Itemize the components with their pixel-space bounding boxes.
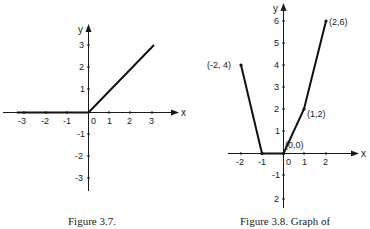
x-axis-label: x [361, 148, 366, 159]
x-tick-label: 3 [149, 116, 154, 126]
y-tick-label: 2 [79, 62, 84, 72]
figure-3-7: x y -3 -2 -1 0 1 2 3 3 2 [0, 0, 200, 229]
figure-caption: Figure 3.8. Graph of [240, 215, 330, 227]
function-graph [17, 45, 154, 113]
y-axis-arrow-icon [281, 3, 287, 11]
x-tick-label: 1 [302, 157, 307, 167]
y-tick-label: -2 [75, 151, 83, 161]
figure-3-8-plot: x y -2 -1 0 1 2 6 5 4 3 2 [200, 0, 370, 229]
x-tick-label: -2 [236, 157, 244, 167]
x-axis-arrow-icon [351, 151, 359, 157]
point-label: (2,6) [329, 17, 348, 27]
x-tick-label: 0 [286, 157, 291, 167]
figure-3-7-plot: x y -3 -2 -1 0 1 2 3 3 2 [0, 0, 200, 229]
y-tick-label: -1 [77, 129, 85, 139]
figure-caption: Figure 3.7. [68, 215, 116, 227]
y-tick-label: 3 [79, 40, 84, 50]
figure-3-8: x y -2 -1 0 1 2 6 5 4 3 2 [200, 0, 370, 229]
y-tick-label: 3 [274, 82, 279, 92]
y-tick-label: -1 [272, 170, 280, 180]
y-axis-arrow-icon [86, 24, 92, 32]
x-tick-label: -2 [41, 116, 49, 126]
y-tick-label: 4 [274, 60, 279, 70]
y-axis-label: y [78, 24, 83, 35]
x-axis-arrow-icon [171, 110, 179, 116]
y-axis-label: y [273, 3, 278, 14]
y-tick-label: 6 [274, 16, 279, 26]
y-tick-label: 1 [80, 84, 85, 94]
y-tick-label: -3 [75, 173, 83, 183]
y-tick-label: 2 [274, 194, 279, 204]
x-tick-label: 1 [107, 116, 112, 126]
x-axis-label: x [181, 107, 186, 118]
point-label: (-2, 4) [207, 60, 231, 70]
y-tick-label: 1 [275, 126, 280, 136]
point-label: (0,0) [285, 140, 304, 150]
x-tick-label: 2 [323, 157, 328, 167]
x-tick-label: -3 [18, 116, 26, 126]
x-tick-label: -1 [63, 116, 71, 126]
y-tick-label: 5 [274, 38, 279, 48]
x-tick-label: 2 [127, 116, 132, 126]
x-tick-label: 0 [91, 116, 96, 126]
x-tick-label: -1 [258, 157, 266, 167]
y-tick-label: 2 [274, 104, 279, 114]
point-label: (1,2) [307, 109, 326, 119]
